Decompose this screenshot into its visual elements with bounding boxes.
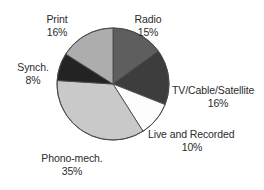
pie-label-tv-cable-satellite: TV/Cable/Satellite 16% <box>172 84 264 109</box>
pie-slice-group <box>57 28 169 140</box>
pie-label-synch-name: Synch. <box>9 61 57 74</box>
pie-label-live-and-recorded-value: 10% <box>148 141 236 154</box>
pie-label-tv-cable-satellite-value: 16% <box>172 97 264 110</box>
pie-label-tv-cable-satellite-name: TV/Cable/Satellite <box>172 84 264 97</box>
pie-label-live-and-recorded-name: Live and Recorded <box>148 128 236 141</box>
pie-chart-figure: Print 16% Radio 15% TV/Cable/Satellite 1… <box>0 0 264 190</box>
pie-label-print-name: Print <box>33 13 81 26</box>
pie-label-synch-value: 8% <box>9 74 57 87</box>
pie-label-phono-mech: Phono-mech. 35% <box>37 152 107 177</box>
pie-label-radio-value: 15% <box>124 26 172 39</box>
pie-label-print-value: 16% <box>33 26 81 39</box>
pie-label-print: Print 16% <box>33 13 81 38</box>
pie-label-synch: Synch. 8% <box>9 61 57 86</box>
pie-label-radio: Radio 15% <box>124 13 172 38</box>
pie-label-phono-mech-name: Phono-mech. <box>37 152 107 165</box>
pie-label-live-and-recorded: Live and Recorded 10% <box>148 128 236 153</box>
pie-label-phono-mech-value: 35% <box>37 165 107 178</box>
pie-label-radio-name: Radio <box>124 13 172 26</box>
